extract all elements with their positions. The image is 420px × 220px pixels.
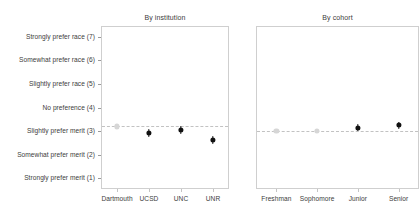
reference-line-2 [257,131,418,132]
x-axis-tick-mark [213,189,214,192]
panel-2 [256,26,419,189]
y-axis-tick-label: Strongly prefer race (7) [26,33,95,40]
x-axis-tick-mark [317,189,318,192]
y-axis-tick-label: Slightly prefer merit (3) [27,127,95,134]
y-axis-tick-label: No preference (4) [42,104,95,111]
chart-figure: Strongly prefer merit (1)Somewhat prefer… [0,0,420,220]
x-axis-tick-mark [358,189,359,192]
y-axis-tick-label: Somewhat prefer race (6) [19,56,95,63]
y-axis-tick-label: Somewhat prefer merit (2) [17,151,95,158]
y-axis-tick-label: Slightly prefer race (5) [29,80,95,87]
x-axis-tick-mark [181,189,182,192]
reference-line-1 [102,126,228,127]
x-axis-tick-mark [117,189,118,192]
panel-title-1: By institution [101,14,229,21]
panel-title-2: By cohort [256,14,419,21]
x-axis-tick-mark [149,189,150,192]
y-axis-tick-label: Strongly prefer merit (1) [24,174,95,181]
x-axis-tick-mark [276,189,277,192]
panel-1 [101,26,229,189]
x-axis-tick-mark [399,189,400,192]
x-axis-tick-label: UNR [183,195,243,202]
x-axis-tick-label: Senior [369,195,420,202]
